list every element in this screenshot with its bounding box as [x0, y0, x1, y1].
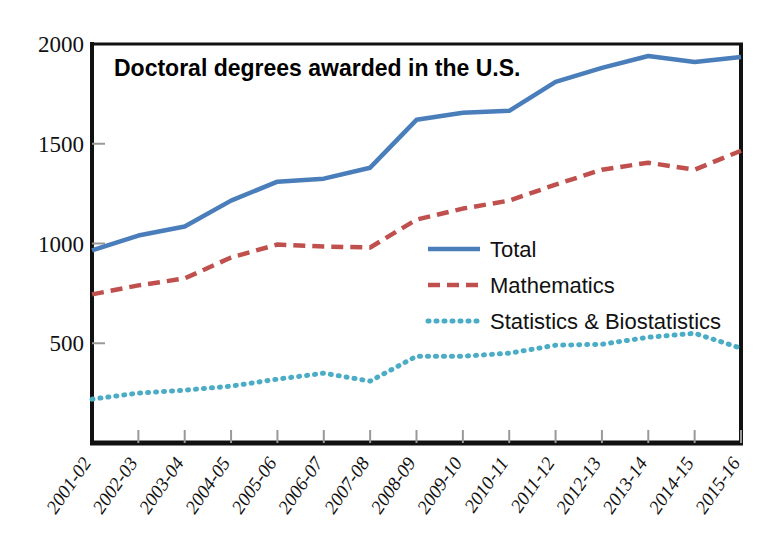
- chart-container: 200015001000500 2001-022002-032003-04200…: [0, 0, 783, 558]
- y-tick-label: 2000: [38, 32, 84, 57]
- y-tick-label: 500: [50, 331, 85, 356]
- y-tick-label: 1000: [38, 232, 84, 257]
- legend-label-2: Mathematics: [490, 273, 615, 298]
- legend-label-1: Total: [490, 237, 536, 262]
- chart-title: Doctoral degrees awarded in the U.S.: [114, 55, 520, 81]
- legend-label-3: Statistics & Biostatistics: [490, 309, 721, 334]
- y-tick-label: 1500: [38, 132, 84, 157]
- line-chart: 200015001000500 2001-022002-032003-04200…: [0, 0, 783, 558]
